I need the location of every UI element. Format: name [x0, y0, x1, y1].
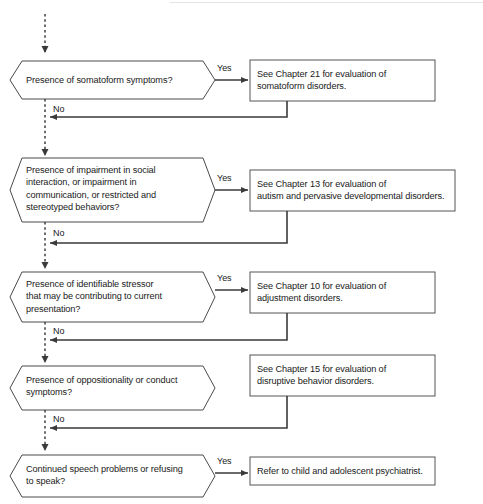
decision-label-2: Presence of impairment in social interac… [26, 164, 204, 214]
decision-label-4: Presence of oppositionality or conduct s… [26, 374, 206, 399]
action-label-5: Refer to child and adolescent psychiatri… [257, 465, 429, 477]
action-label-4: See Chapter 15 for evaluation of disrupt… [257, 363, 429, 388]
flowchart-page: Presence of somatoform symptoms? Yes No … [0, 0, 483, 504]
no-label-1: No [53, 104, 64, 114]
yes-label-3: Yes [217, 273, 232, 283]
yes-label-1: Yes [217, 63, 232, 73]
action-label-1: See Chapter 21 for evaluation of somatof… [257, 68, 429, 93]
decision-label-1: Presence of somatoform symptoms? [26, 74, 201, 86]
return-path-1 [50, 101, 287, 117]
action-label-2: See Chapter 13 for evaluation of autism … [257, 178, 451, 203]
no-label-2: No [53, 228, 64, 238]
decision-label-3: Presence of identifiable stressor that m… [26, 278, 204, 315]
yes-label-5: Yes [217, 456, 232, 466]
no-label-4: No [53, 414, 64, 424]
yes-label-2: Yes [217, 173, 232, 183]
action-label-3: See Chapter 10 for evaluation of adjustm… [257, 280, 429, 305]
no-label-3: No [53, 326, 64, 336]
decision-label-5: Continued speech problems or refusing to… [26, 463, 206, 488]
